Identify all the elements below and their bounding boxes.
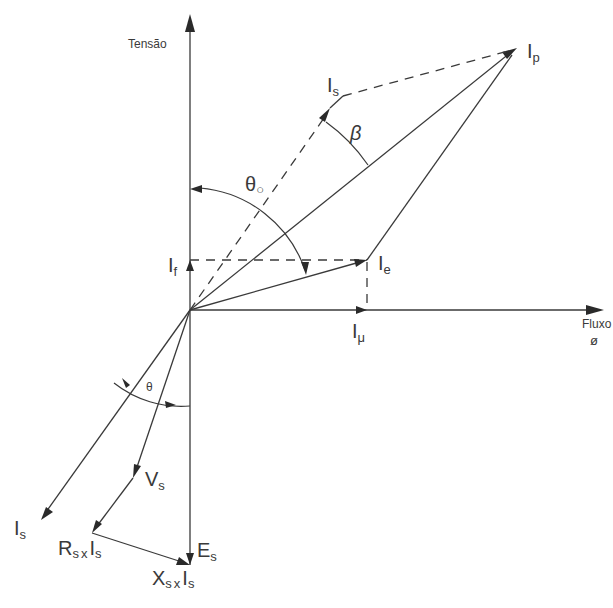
voltage-axis-label: Tensão — [128, 37, 167, 51]
theta0-arrowhead-right — [301, 262, 309, 275]
ie-phasor — [190, 262, 360, 310]
imu-arrowhead — [356, 306, 367, 314]
is-lower-arrowhead — [41, 507, 53, 520]
xs-is-phasor — [92, 533, 182, 562]
ip-label: Ip — [527, 40, 540, 65]
if-arrowhead — [186, 260, 194, 271]
is-lower-phasor — [46, 310, 190, 512]
is-to-ip-dashed — [343, 50, 512, 96]
theta-label: θ — [146, 380, 153, 394]
imu-label: Iμ — [352, 320, 365, 345]
vs-arrowhead — [133, 464, 141, 478]
beta-arc — [326, 122, 368, 165]
phasor-diagram: Tensão Fluxo ø Iμ If Ie Ip Is β θ○ Is Vs… — [0, 0, 613, 608]
ie-arrowhead — [354, 259, 367, 267]
theta0-label: θ○ — [245, 173, 264, 197]
vs-phasor — [136, 310, 190, 470]
is-reflected-dashed — [190, 118, 324, 310]
ip-phasor — [190, 53, 510, 310]
is-lower-label: Is — [14, 517, 27, 542]
theta-arrowhead-right — [165, 401, 176, 408]
rs-is-label: RsxIs — [58, 537, 102, 561]
theta-arrowhead-left — [122, 378, 130, 388]
ie-to-ip-line — [367, 55, 512, 260]
ie-label: Ie — [378, 252, 391, 277]
es-label: Es — [197, 539, 217, 564]
if-label: If — [168, 254, 178, 279]
flux-axis-label: Fluxo — [582, 317, 612, 331]
is-reflected-arrowhead — [319, 108, 330, 122]
is-upper-label: Is — [327, 74, 340, 99]
beta-label: β — [349, 122, 361, 144]
rs-is-phasor — [97, 478, 133, 526]
xs-is-label: XsxIs — [152, 567, 195, 591]
theta0-arc — [200, 188, 305, 270]
vs-label: Vs — [145, 468, 165, 493]
flux-axis-symbol: ø — [590, 333, 598, 348]
voltage-axis-arrowhead — [185, 14, 195, 32]
theta0-arrowhead-left — [190, 185, 202, 193]
flux-axis-arrowhead — [586, 305, 604, 315]
